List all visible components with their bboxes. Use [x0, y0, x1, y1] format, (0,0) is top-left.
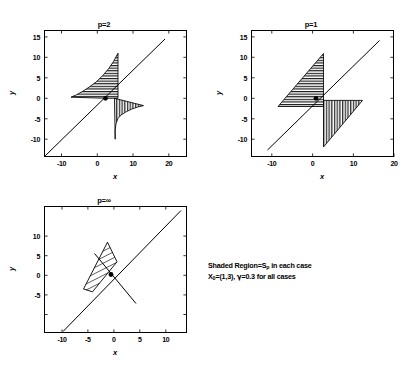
panel-pinf-initial-point: [109, 272, 114, 277]
panel-pinf-diagonal-line: [63, 211, 181, 332]
panel-p1-initial-point: [314, 96, 319, 101]
panel-p2-ytick-0: -10: [17, 136, 40, 143]
annotation-line-1-prefix: Shaded Region=S: [208, 261, 266, 270]
panel-pinf-ytick-3: 10: [22, 233, 40, 240]
panel-pinf-ytick-2: 5: [24, 252, 40, 259]
annotation-line-2: X0=(1,3), γ=0.3 for all cases: [208, 272, 312, 283]
panel-pinf-canvas: [0, 188, 208, 378]
panel-p2-ytick-1: -5: [20, 115, 40, 122]
panel-p1-ytick-1: -5: [227, 115, 247, 122]
panel-pinf-hatched-region: [84, 242, 118, 292]
panel-p2-xtick-3: 20: [165, 160, 172, 167]
panel-p2-ytick-2: 0: [24, 95, 40, 102]
annotation-block: Shaded Region=Sp in each case X0=(1,3), …: [208, 261, 312, 284]
panel-p1-xtick-0: -10: [267, 160, 276, 167]
annotation-line-2-suffix: =0.3 for all cases: [242, 272, 296, 281]
panel-p1-ytick-3: 5: [231, 74, 247, 81]
panel-pinf-ticks: [44, 206, 187, 333]
panel-p2-xtick-1: 0: [96, 160, 100, 167]
panel-pinf-xtick-1: -5: [85, 336, 91, 343]
panel-pinf: p=∞: [0, 188, 208, 378]
panel-p1-xtick-1: 0: [311, 160, 315, 167]
annotation-line-2-mid: =(1,3),: [215, 272, 236, 281]
panel-pinf-xtick-4: 10: [162, 336, 169, 343]
panel-p1-xtick-2: 10: [350, 160, 357, 167]
panel-pinf-xtick-3: 5: [138, 336, 142, 343]
annotation-line-1: Shaded Region=Sp in each case: [208, 261, 312, 272]
panel-p2-lower-region: [115, 98, 144, 139]
panel-p1-ytick-0: -10: [224, 136, 247, 143]
panel-pinf-xlabel: x: [113, 348, 117, 357]
panel-p2-ytick-3: 5: [24, 74, 40, 81]
panel-p2-ytick-5: 15: [24, 33, 40, 40]
panel-p1-lower-triangle: [324, 100, 363, 147]
panel-p1-ytick-5: 15: [231, 33, 247, 40]
panel-p1-xtick-3: 20: [390, 160, 397, 167]
annotation-line-1-suffix: in each case: [269, 261, 311, 270]
panel-p1-ytick-2: 0: [231, 95, 247, 102]
panel-p1: p=1: [207, 0, 415, 189]
panel-pinf-ytick-0: -5: [20, 291, 40, 298]
panel-p2-xlabel: x: [113, 172, 117, 181]
panel-p2-initial-point: [103, 96, 108, 101]
panel-p1-ytick-4: 10: [231, 54, 247, 61]
panel-p2-xtick-0: -10: [57, 160, 66, 167]
panel-p1-ylabel: y: [214, 86, 223, 100]
panel-pinf-xtick-0: -10: [57, 336, 66, 343]
panel-p2-ytick-4: 10: [24, 54, 40, 61]
panel-pinf-ylabel: y: [7, 262, 16, 276]
panel-pinf-xtick-2: 0: [112, 336, 116, 343]
panel-p1-xlabel: x: [320, 172, 324, 181]
panel-pinf-ytick-1: 0: [24, 272, 40, 279]
panel-p2-xtick-2: 10: [129, 160, 136, 167]
panel-p2: p=2: [0, 0, 208, 189]
panel-p2-ylabel: y: [7, 86, 16, 100]
